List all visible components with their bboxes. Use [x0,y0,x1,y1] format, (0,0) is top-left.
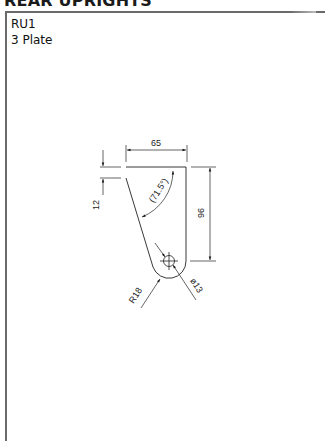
dimension-width-label: 65 [151,138,161,148]
dimension-offset-label: 12 [91,200,101,210]
dimension-offset [100,150,121,195]
dimension-radius-label: R18 [127,286,144,305]
dimension-height-label: 96 [196,208,206,218]
hole [160,252,178,270]
dimension-diameter [155,243,196,300]
dimension-radius [141,279,160,308]
dimension-angle-label: (71.5°) [147,176,170,204]
